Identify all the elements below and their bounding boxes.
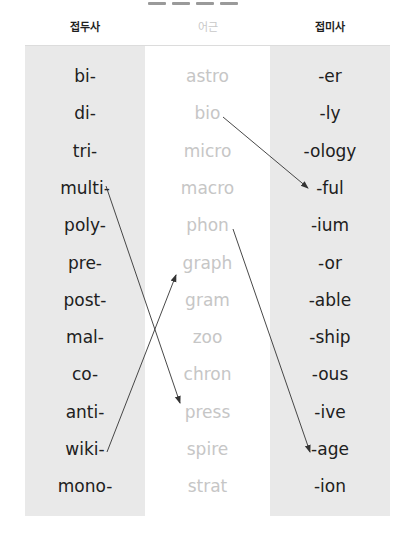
root-column: astro bio micro macro phon graph gram zo… (145, 46, 270, 516)
suffix-item: -ology (270, 133, 390, 170)
root-item: micro (145, 133, 270, 170)
root-item: macro (145, 170, 270, 207)
root-item: press (145, 394, 270, 431)
prefix-item: mono- (25, 468, 145, 505)
header-root: 어근 (145, 18, 270, 46)
column-headers: 접두사 어근 접미사 (25, 18, 390, 46)
root-item: graph (145, 245, 270, 282)
prefix-item: poly- (25, 207, 145, 244)
suffix-column: -er -ly -ology -ful -ium -or -able -ship… (270, 46, 390, 516)
suffix-item: -ly (270, 95, 390, 132)
root-item: spire (145, 431, 270, 468)
root-item: strat (145, 468, 270, 505)
prefix-item: di- (25, 95, 145, 132)
suffix-item: -ive (270, 394, 390, 431)
title-cut-off (148, 0, 263, 3)
suffix-item: -able (270, 282, 390, 319)
prefix-item: bi- (25, 58, 145, 95)
prefix-column: bi- di- tri- multi- poly- pre- post- mal… (25, 46, 145, 516)
suffix-item: -ium (270, 207, 390, 244)
root-item: bio (145, 95, 270, 132)
prefix-item: anti- (25, 394, 145, 431)
header-suffix: 접미사 (270, 18, 390, 46)
suffix-item: -or (270, 245, 390, 282)
suffix-item: -er (270, 58, 390, 95)
prefix-item: multi- (25, 170, 145, 207)
prefix-item: wiki- (25, 431, 145, 468)
prefix-item: tri- (25, 133, 145, 170)
root-item: zoo (145, 319, 270, 356)
root-item: phon (145, 207, 270, 244)
prefix-item: pre- (25, 245, 145, 282)
suffix-item: -ful (270, 170, 390, 207)
prefix-item: co- (25, 356, 145, 393)
header-prefix: 접두사 (25, 18, 145, 46)
suffix-item: -age (270, 431, 390, 468)
suffix-item: -ion (270, 468, 390, 505)
root-item: astro (145, 58, 270, 95)
prefix-item: mal- (25, 319, 145, 356)
suffix-item: -ous (270, 356, 390, 393)
prefix-item: post- (25, 282, 145, 319)
root-item: chron (145, 356, 270, 393)
root-item: gram (145, 282, 270, 319)
suffix-item: -ship (270, 319, 390, 356)
